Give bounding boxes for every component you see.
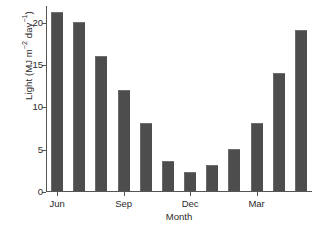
bar: [184, 172, 196, 191]
x-tick-label: Jun: [49, 198, 64, 209]
bar: [251, 123, 263, 191]
y-tick-label: 20: [32, 17, 43, 28]
y-tick-label: 0: [38, 186, 43, 197]
bar: [206, 165, 218, 191]
x-axis-line: [46, 191, 312, 192]
y-tick-label: 15: [32, 59, 43, 70]
plot-area: 05101520 JunSepDecMar: [46, 6, 312, 192]
bar: [295, 30, 307, 191]
y-tick-label: 10: [32, 101, 43, 112]
y-axis-title-prefix: Light (MJ m: [23, 49, 34, 100]
x-axis-title: Month: [46, 211, 312, 222]
x-tick-label: Mar: [248, 198, 264, 209]
y-axis-title-exponent-area: −2: [21, 41, 28, 49]
y-axis-title-exponent-day: −1: [21, 14, 28, 22]
bar: [162, 161, 174, 191]
x-tick-mark: [190, 192, 191, 196]
y-tick-label: 5: [38, 144, 43, 155]
bar: [118, 90, 130, 191]
bar: [51, 12, 63, 191]
bar: [140, 123, 152, 191]
x-tick-label: Sep: [115, 198, 132, 209]
bar: [228, 149, 240, 191]
bar: [273, 73, 285, 191]
y-axis-title-suffix: ): [23, 11, 34, 14]
x-tick-mark: [124, 192, 125, 196]
y-axis-line: [46, 6, 47, 192]
x-tick-mark: [57, 192, 58, 196]
x-tick-mark: [257, 192, 258, 196]
bar: [73, 22, 85, 191]
x-tick-label: Dec: [182, 198, 199, 209]
bar-chart: Light (MJ m−2 day−1) 05101520 JunSepDecM…: [0, 0, 322, 230]
bar: [95, 56, 107, 191]
